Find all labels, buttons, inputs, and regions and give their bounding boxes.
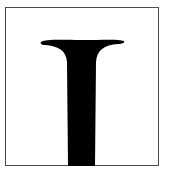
flared-t-glyph-icon — [0, 0, 169, 170]
t-shape — [41, 40, 125, 166]
